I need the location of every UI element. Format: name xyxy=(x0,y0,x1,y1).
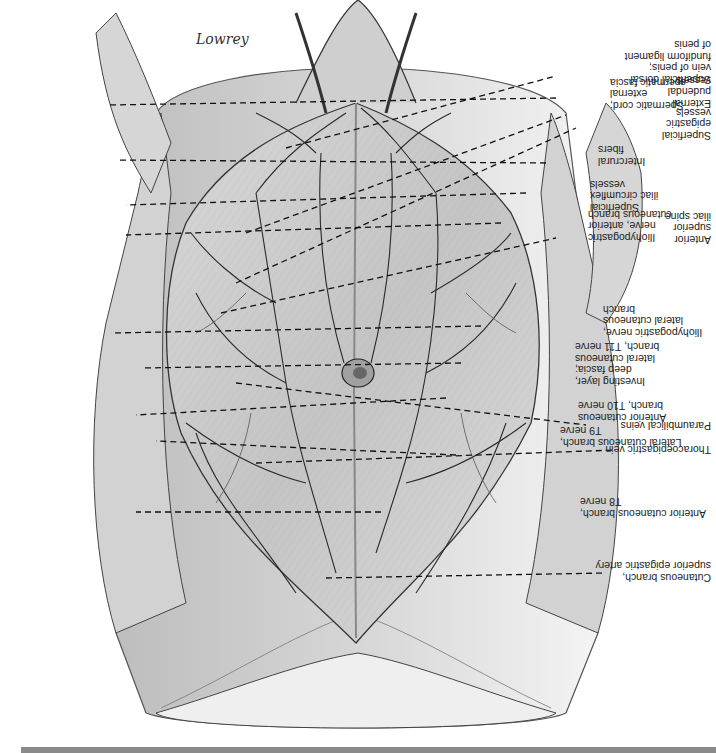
label-iliohypogastric-lateral: Iliohypogastric nerve, lateral cutaneous… xyxy=(603,304,716,339)
label-intercrural-fibers: Intercrural fibers xyxy=(598,144,716,167)
label-thoracoepigastric-vein: Thoracoepigastric vein xyxy=(561,444,711,456)
label-anterior-superior-iliac-spine: Anterior superior iliac spine xyxy=(561,211,711,246)
pubic-region xyxy=(296,0,416,103)
artist-signature: Lowrey xyxy=(195,31,250,47)
label-cutaneous-superior-epigastric: Cutaneous branch, superior epigastric ar… xyxy=(561,560,711,583)
label-superficial-circumflex-iliac: Superficial iliac circumflex vessels xyxy=(590,179,716,214)
label-investing-layer: Investing layer, deep fascia; lateral cu… xyxy=(575,341,715,387)
label-superficial-epigastric: Superficial epigastric vessels xyxy=(561,107,711,142)
label-superficial-dorsal-vein: Superficial dorsal vein of penis; fundif… xyxy=(561,39,711,85)
rotated-figure: Lowrey Anterior cutaneous branch, T8 ne xyxy=(0,0,716,753)
label-anterior-cutaneous-t8: Anterior cutaneous branch, T8 nerve xyxy=(580,496,716,519)
figure-divider-bar xyxy=(21,747,716,753)
label-paraumbilical-veins: Paraumbilical veins xyxy=(561,420,711,432)
thigh-flap-left xyxy=(96,13,171,193)
